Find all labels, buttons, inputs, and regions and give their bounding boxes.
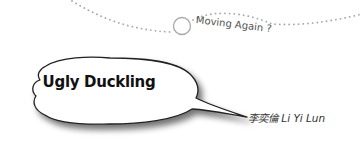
author-name: 李奕倫 Li Yi Lun [248, 110, 325, 125]
dotted-path-left [72, 1, 170, 32]
bubble-title: Ugly Duckling [32, 73, 166, 91]
circle-node-icon [174, 18, 191, 35]
